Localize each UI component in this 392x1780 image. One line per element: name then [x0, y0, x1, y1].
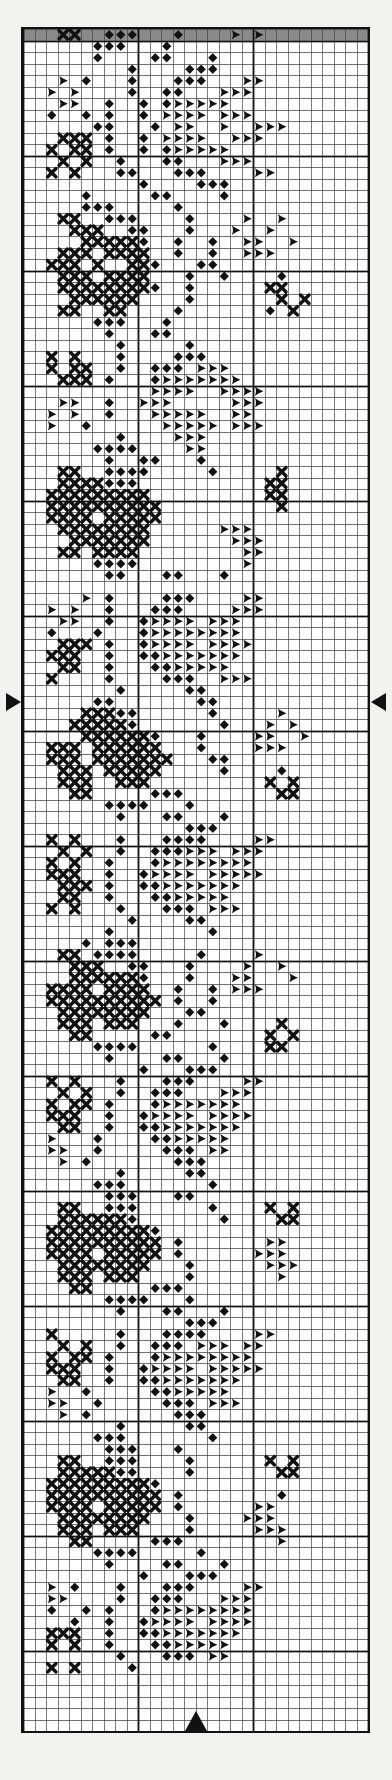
cross-stitch-chart: Cross-stitch pattern chart [0, 0, 392, 1780]
triangle-left-icon [371, 693, 386, 711]
pattern-grid[interactable] [21, 27, 370, 1733]
triangle-right-icon [6, 693, 21, 711]
chart-title: Cross-stitch pattern chart [0, 0, 1, 1]
triangle-down-icon [185, 1711, 207, 1731]
pattern-grid-canvas[interactable] [23, 29, 368, 1731]
